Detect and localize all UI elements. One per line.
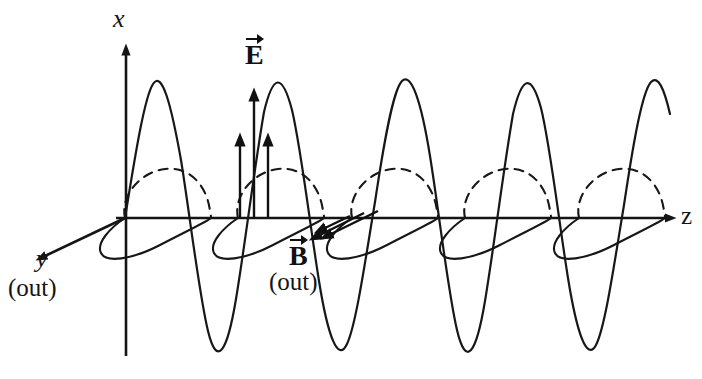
em-wave-canvas (0, 0, 702, 379)
b-arrow-middle (320, 213, 364, 235)
y-axis-line (45, 218, 125, 256)
b-wave-solid-lobes (100, 218, 665, 259)
x-axis-label: x (113, 6, 125, 32)
y-axis-label: y (36, 246, 48, 272)
e-wave-curve (125, 79, 670, 351)
b-wave-dashed-lobes (124, 169, 665, 218)
b-vector-arrow-icon (289, 234, 308, 243)
e-field-label-glyph: E (245, 41, 264, 69)
z-axis-label: z (681, 203, 692, 228)
b-field-label-glyph: B (289, 242, 308, 270)
e-vector-arrow-icon (245, 33, 264, 42)
b-field-out-label: (out) (269, 268, 318, 296)
y-axis-out-label: (out) (8, 275, 57, 300)
e-field-vector-label: E (245, 33, 264, 69)
b-field-vector-label: B (289, 234, 308, 270)
em-wave-figure: x z y (out) E B (out) (0, 0, 702, 379)
